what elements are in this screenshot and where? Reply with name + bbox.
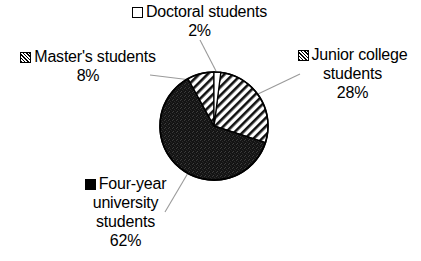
- hatched-square-marker: [20, 52, 31, 63]
- label-fouryear-percent: 62%: [54, 231, 197, 250]
- label-junior-title-row: Junior college: [286, 45, 419, 64]
- label-junior-college-students: Junior college students 28%: [286, 45, 419, 102]
- label-doctoral-students: Doctoral students 2%: [112, 2, 287, 40]
- label-doctoral-percent: 2%: [112, 21, 287, 40]
- pie-chart-figure: Doctoral students 2% Master's students 8…: [0, 0, 421, 261]
- label-doctoral-title-row: Doctoral students: [112, 2, 287, 21]
- label-junior-name-line2: students: [286, 64, 419, 83]
- solid-square-marker: [85, 179, 96, 190]
- label-four-year-university-students: Four-year university students 62%: [54, 174, 197, 250]
- label-masters-students: Master's students 8%: [2, 47, 174, 85]
- label-junior-name-line1: Junior college: [312, 46, 408, 63]
- label-masters-percent: 8%: [2, 66, 174, 85]
- label-doctoral-name: Doctoral students: [146, 3, 267, 20]
- label-fouryear-name-line2: university: [54, 193, 197, 212]
- label-fouryear-name-line3: students: [54, 212, 197, 231]
- hatched-square-marker: [298, 50, 309, 61]
- leader-line-doctoral: [200, 40, 216, 71]
- hollow-square-marker: [132, 7, 143, 18]
- label-masters-name: Master's students: [34, 48, 155, 65]
- label-fouryear-title-row: Four-year: [54, 174, 197, 193]
- label-junior-percent: 28%: [286, 83, 419, 102]
- label-masters-title-row: Master's students: [2, 47, 174, 66]
- label-fouryear-name-line1: Four-year: [99, 175, 167, 192]
- pie-slices: [160, 72, 268, 180]
